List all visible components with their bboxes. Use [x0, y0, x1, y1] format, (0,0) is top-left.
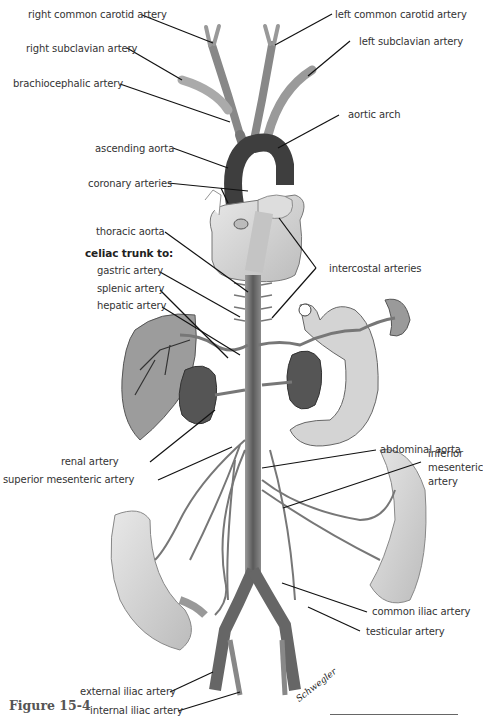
label-brachiocephalic: brachiocephalic artery — [13, 78, 123, 90]
label-aortic-arch: aortic arch — [348, 109, 401, 121]
label-external-iliac-artery: external iliac artery — [80, 686, 176, 698]
label-internal-iliac-artery: internal iliac artery — [90, 705, 183, 716]
figure-caption: Figure 15-4 — [9, 698, 91, 713]
label-celiac-trunk-heading: celiac trunk to: — [85, 247, 173, 259]
label-renal-artery: renal artery — [61, 456, 119, 468]
label-hepatic-artery: hepatic artery — [97, 300, 166, 312]
label-ascending-aorta: ascending aorta — [95, 143, 174, 155]
heart — [205, 190, 304, 282]
label-inferior-mesenteric-line3: artery — [428, 476, 458, 488]
label-common-iliac-artery: common iliac artery — [372, 606, 470, 618]
label-testicular-artery: testicular artery — [366, 626, 445, 638]
label-right-common-carotid: right common carotid artery — [28, 9, 167, 21]
neck-arteries — [182, 26, 312, 150]
label-left-common-carotid: left common carotid artery — [335, 9, 467, 21]
label-coronary-arteries: coronary arteries — [88, 178, 172, 190]
label-right-subclavian: right subclavian artery — [26, 43, 137, 55]
label-splenic-artery: splenic artery — [97, 283, 164, 295]
label-left-subclavian: left subclavian artery — [359, 36, 463, 48]
aorta — [215, 275, 295, 695]
label-gastric-artery: gastric artery — [97, 265, 163, 277]
caption-rule — [330, 714, 458, 715]
label-superior-mesenteric-artery: superior mesenteric artery — [3, 474, 134, 486]
label-thoracic-aorta: thoracic aorta — [96, 226, 165, 238]
label-inferior-mesenteric-line1: inferior — [428, 448, 463, 460]
label-inferior-mesenteric-line2: mesenteric — [428, 462, 483, 474]
label-intercostal-arteries: intercostal arteries — [329, 263, 421, 275]
